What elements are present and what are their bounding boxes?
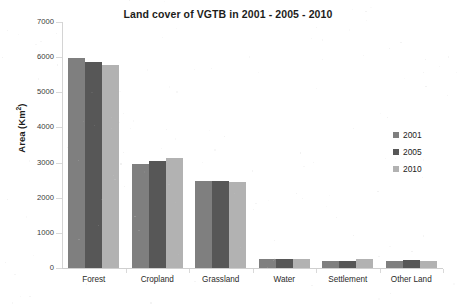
bar-group-bars bbox=[189, 22, 253, 268]
x-axis-category-label: Forest bbox=[62, 275, 126, 284]
y-axis-tick-label: 2000 bbox=[37, 194, 54, 202]
x-axis-tick bbox=[253, 269, 254, 273]
legend-label: 2010 bbox=[403, 164, 422, 174]
bar[interactable] bbox=[420, 261, 437, 268]
scan-speck bbox=[447, 95, 448, 96]
scan-speck bbox=[20, 296, 21, 297]
scan-speck bbox=[390, 293, 391, 294]
bar-group bbox=[62, 22, 126, 268]
y-axis-tick-label: 6000 bbox=[37, 53, 54, 61]
y-axis-tick bbox=[56, 268, 62, 269]
x-axis-tick bbox=[126, 269, 127, 273]
bar-group bbox=[189, 22, 253, 268]
y-axis-tick-label: 3000 bbox=[37, 159, 54, 167]
bar-group bbox=[126, 22, 190, 268]
scan-speck bbox=[2, 57, 3, 58]
scan-speck bbox=[378, 298, 380, 300]
bar-group bbox=[316, 22, 380, 268]
x-axis-tick bbox=[380, 269, 381, 273]
bar[interactable] bbox=[212, 181, 229, 268]
x-axis-category-label: Other Land bbox=[380, 275, 444, 284]
scan-speck bbox=[18, 34, 19, 35]
bar[interactable] bbox=[386, 261, 403, 268]
bar[interactable] bbox=[259, 259, 276, 268]
y-axis-tick-label: 5000 bbox=[37, 88, 54, 96]
x-axis-tick bbox=[189, 269, 190, 273]
chart-title: Land cover of VGTB in 2001 - 2005 - 2010 bbox=[0, 8, 456, 20]
bar[interactable] bbox=[229, 182, 246, 268]
legend-item-2005[interactable]: 2005 bbox=[393, 143, 449, 160]
x-axis-category-label: Grassland bbox=[189, 275, 253, 284]
y-axis-tick-label: 0 bbox=[50, 264, 54, 272]
x-axis-category-label: Cropland bbox=[126, 275, 190, 284]
bar[interactable] bbox=[166, 158, 183, 268]
scan-speck bbox=[129, 0, 130, 1]
bar-group-bars bbox=[126, 22, 190, 268]
plot-area: ForestCroplandGrasslandWaterSettlementOt… bbox=[62, 22, 443, 269]
legend-item-2010[interactable]: 2010 bbox=[393, 160, 449, 177]
scan-speck bbox=[57, 64, 58, 66]
y-axis-tick-labels: 70006000500040003000200010000 bbox=[20, 22, 54, 269]
bar-group-bars bbox=[62, 22, 126, 268]
scan-speck bbox=[7, 30, 8, 31]
legend-swatch-icon bbox=[393, 132, 399, 138]
legend-label: 2005 bbox=[403, 147, 422, 157]
chart-legend: 200120052010 bbox=[393, 126, 449, 177]
bar[interactable] bbox=[149, 161, 166, 268]
scan-speck bbox=[448, 56, 449, 58]
x-axis-category-label: Water bbox=[253, 275, 317, 284]
legend-item-2001[interactable]: 2001 bbox=[393, 126, 449, 143]
bar[interactable] bbox=[68, 58, 85, 268]
legend-label: 2001 bbox=[403, 130, 422, 140]
bar-group bbox=[253, 22, 317, 268]
legend-swatch-icon bbox=[393, 149, 399, 155]
bar[interactable] bbox=[276, 259, 293, 268]
y-axis-tick-label: 1000 bbox=[37, 229, 54, 237]
x-axis-tick bbox=[316, 269, 317, 273]
scan-speck bbox=[29, 296, 31, 297]
bar[interactable] bbox=[85, 62, 102, 268]
x-axis-tick bbox=[443, 269, 444, 273]
y-axis-tick-label: 7000 bbox=[37, 18, 54, 26]
scan-speck bbox=[453, 283, 455, 285]
scan-speck bbox=[164, 1, 165, 2]
bar[interactable] bbox=[322, 261, 339, 268]
y-axis-tick-label: 4000 bbox=[37, 123, 54, 131]
scan-speck bbox=[311, 285, 313, 286]
scan-speck bbox=[5, 262, 6, 263]
bar[interactable] bbox=[132, 164, 149, 268]
scan-speck bbox=[7, 199, 8, 200]
scan-speck bbox=[14, 274, 16, 275]
bar-group-bars bbox=[253, 22, 317, 268]
bar[interactable] bbox=[403, 260, 420, 268]
bar[interactable] bbox=[356, 259, 373, 268]
bar[interactable] bbox=[195, 181, 212, 268]
bar[interactable] bbox=[102, 65, 119, 268]
bar[interactable] bbox=[339, 261, 356, 268]
legend-swatch-icon bbox=[393, 166, 399, 172]
scan-speck bbox=[56, 33, 57, 34]
bar-group-bars bbox=[316, 22, 380, 268]
x-axis-category-label: Settlement bbox=[316, 275, 380, 284]
bar[interactable] bbox=[293, 259, 310, 268]
